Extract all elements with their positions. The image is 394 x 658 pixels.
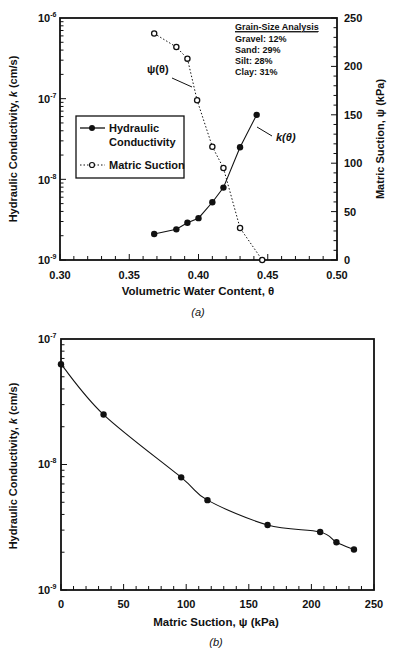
legend-open-circle-icon bbox=[90, 163, 95, 168]
filled-circle-marker-icon bbox=[173, 226, 179, 232]
chart-b-caption: (b) bbox=[209, 636, 223, 648]
svg-text:0.30: 0.30 bbox=[49, 269, 70, 281]
svg-text:200: 200 bbox=[344, 60, 362, 72]
svg-text:10-9: 10-9 bbox=[38, 253, 57, 266]
svg-text:k(θ): k(θ) bbox=[276, 131, 296, 143]
svg-text:150: 150 bbox=[240, 598, 258, 610]
filled-circle-marker-icon bbox=[333, 539, 339, 545]
svg-text:10-8: 10-8 bbox=[38, 457, 57, 470]
svg-text:Sand: 29%: Sand: 29% bbox=[235, 45, 281, 55]
svg-text:100: 100 bbox=[177, 598, 195, 610]
filled-circle-marker-icon bbox=[204, 497, 210, 503]
svg-text:250: 250 bbox=[344, 12, 362, 24]
svg-text:Clay: 31%: Clay: 31% bbox=[235, 67, 278, 77]
chart-b-ylabel: Hydraulic Conductivity, k (cm/s) bbox=[7, 382, 19, 549]
chart-b-series-hydraulic-conductivity bbox=[58, 361, 357, 553]
open-circle-marker-icon bbox=[195, 98, 200, 103]
svg-text:0.45: 0.45 bbox=[257, 269, 278, 281]
svg-text:10-6: 10-6 bbox=[38, 11, 57, 24]
svg-text:250: 250 bbox=[365, 598, 383, 610]
open-circle-marker-icon bbox=[174, 44, 179, 49]
chart-a-annotation-psi: ψ(θ) bbox=[147, 63, 192, 87]
chart-a-x-tick-labels: 0.300.350.400.450.50 bbox=[49, 269, 347, 281]
filled-circle-marker-icon bbox=[317, 529, 323, 535]
figure: 10-6 10-7 10-8 10-9 050100150200250 0.30… bbox=[0, 0, 394, 658]
svg-text:Silt: 28%: Silt: 28% bbox=[235, 56, 273, 66]
chart-b-xlabel: Matric Suction, ψ (kPa) bbox=[153, 616, 279, 628]
svg-text:100: 100 bbox=[344, 157, 362, 169]
open-circle-marker-icon bbox=[210, 144, 215, 149]
svg-text:10-7: 10-7 bbox=[38, 332, 57, 345]
svg-text:10-7: 10-7 bbox=[38, 92, 57, 105]
svg-text:Matric Suction: Matric Suction bbox=[109, 159, 185, 171]
filled-circle-marker-icon bbox=[351, 546, 357, 552]
svg-text:0.50: 0.50 bbox=[326, 269, 347, 281]
chart-b-y-tick-labels: 10-7 10-8 10-9 bbox=[38, 332, 57, 596]
filled-circle-marker-icon bbox=[151, 231, 157, 237]
chart-a-y-tick-labels: 10-6 10-7 10-8 10-9 bbox=[38, 11, 57, 266]
legend-filled-circle-icon bbox=[89, 125, 95, 131]
open-circle-marker-icon bbox=[152, 31, 157, 36]
svg-text:0.40: 0.40 bbox=[188, 269, 209, 281]
filled-circle-marker-icon bbox=[178, 474, 184, 480]
filled-circle-marker-icon bbox=[195, 215, 201, 221]
chart-a-ylabel: Hydraulic Conductivity, k (cm/s) bbox=[7, 55, 19, 222]
open-circle-marker-icon bbox=[237, 225, 242, 230]
open-circle-marker-icon bbox=[221, 165, 226, 170]
svg-text:0.35: 0.35 bbox=[119, 269, 140, 281]
chart-a-legend: Hydraulic Conductivity Matric Suction bbox=[76, 116, 185, 178]
open-circle-marker-icon bbox=[260, 257, 265, 262]
svg-text:200: 200 bbox=[302, 598, 320, 610]
filled-circle-marker-icon bbox=[264, 522, 270, 528]
svg-text:50: 50 bbox=[117, 598, 129, 610]
svg-text:0: 0 bbox=[344, 254, 350, 266]
chart-b: 10-7 10-8 10-9 050100150200250 Hydraulic… bbox=[7, 332, 383, 648]
chart-a-caption: (a) bbox=[191, 306, 205, 318]
chart-b-x-tick-labels: 050100150200250 bbox=[58, 598, 383, 610]
svg-text:150: 150 bbox=[344, 109, 362, 121]
open-circle-marker-icon bbox=[185, 56, 190, 61]
svg-text:0: 0 bbox=[58, 598, 64, 610]
filled-circle-marker-icon bbox=[209, 199, 215, 205]
filled-circle-marker-icon bbox=[100, 411, 106, 417]
svg-text:Conductivity: Conductivity bbox=[109, 136, 176, 148]
svg-text:10-9: 10-9 bbox=[38, 583, 57, 596]
chart-a-y2-tick-labels: 050100150200250 bbox=[344, 12, 362, 266]
svg-text:Gravel: 12%: Gravel: 12% bbox=[235, 34, 287, 44]
filled-circle-marker-icon bbox=[184, 219, 190, 225]
svg-text:50: 50 bbox=[344, 206, 356, 218]
chart-a: 10-6 10-7 10-8 10-9 050100150200250 0.30… bbox=[7, 11, 386, 318]
svg-text:ψ(θ): ψ(θ) bbox=[147, 63, 169, 75]
chart-a-xlabel: Volumetric Water Content, θ bbox=[122, 285, 275, 297]
filled-circle-marker-icon bbox=[58, 361, 64, 367]
chart-b-ticks bbox=[61, 345, 374, 590]
filled-circle-marker-icon bbox=[237, 144, 243, 150]
chart-a-grain-size-inset: Grain-Size Analysis Gravel: 12% Sand: 29… bbox=[235, 22, 319, 77]
svg-text:Grain-Size Analysis: Grain-Size Analysis bbox=[235, 22, 319, 32]
svg-text:Hydraulic: Hydraulic bbox=[109, 122, 159, 134]
chart-a-annotation-k: k(θ) bbox=[257, 127, 296, 143]
chart-a-y2label: Matric Suction, ψ (kPa) bbox=[374, 79, 386, 199]
chart-b-plot-frame bbox=[61, 339, 374, 590]
filled-circle-marker-icon bbox=[253, 112, 259, 118]
svg-text:10-8: 10-8 bbox=[38, 173, 57, 186]
filled-circle-marker-icon bbox=[220, 184, 226, 190]
